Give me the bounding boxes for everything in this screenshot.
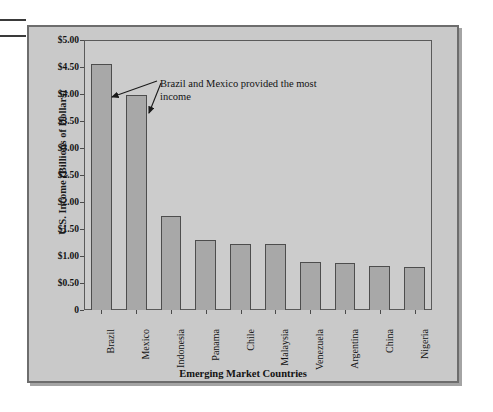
y-tick-label: $4.50: [58, 62, 79, 72]
y-tick-label: $0.50: [58, 278, 79, 288]
x-tick-mark: [310, 310, 311, 314]
x-tick-mark: [206, 310, 207, 314]
margin-rule-top: [0, 19, 26, 21]
x-label-venezuela: Venezuela: [314, 329, 325, 370]
bar-chile: [230, 244, 251, 310]
y-tick-label: $1.00: [58, 251, 79, 261]
x-label-brazil: Brazil: [105, 329, 116, 353]
y-tick-label: $3.50: [58, 116, 79, 126]
x-tick-mark: [275, 310, 276, 314]
bar-nigeria: [404, 267, 425, 310]
x-tick-mark: [415, 310, 416, 314]
x-label-panama: Panama: [210, 329, 221, 361]
chart-figure-frame: U.S. Income (Billions of Dollars) 0$0.50…: [27, 25, 459, 383]
bar-china: [369, 266, 390, 310]
y-tick-mark: [80, 121, 84, 122]
y-tick-mark: [80, 67, 84, 68]
bar-panama: [195, 240, 216, 310]
bar-venezuela: [300, 262, 321, 310]
y-tick-label: 0: [74, 305, 79, 315]
x-tick-mark: [241, 310, 242, 314]
x-label-mexico: Mexico: [140, 329, 151, 360]
bar-mexico: [126, 95, 147, 310]
y-tick-mark: [80, 40, 84, 41]
y-tick-mark: [80, 310, 84, 311]
chart-annotation-text: Brazil and Mexico provided the most inco…: [160, 77, 335, 103]
bar-indonesia: [161, 216, 182, 311]
x-label-argentina: Argentina: [349, 329, 360, 369]
x-tick-mark: [380, 310, 381, 314]
x-tick-mark: [171, 310, 172, 314]
y-tick-label: $2.00: [58, 197, 79, 207]
bar-malaysia: [265, 244, 286, 310]
bar-argentina: [335, 263, 356, 310]
x-label-malaysia: Malaysia: [279, 329, 290, 366]
y-tick-label: $2.50: [58, 170, 79, 180]
y-tick-label: $5.00: [58, 35, 79, 45]
x-tick-mark: [136, 310, 137, 314]
x-axis-title: Emerging Market Countries: [29, 368, 457, 379]
y-tick-mark: [80, 175, 84, 176]
y-tick-label: $3.00: [58, 143, 79, 153]
y-tick-mark: [80, 229, 84, 230]
y-tick-mark: [80, 202, 84, 203]
y-tick-mark: [80, 283, 84, 284]
bar-brazil: [91, 64, 112, 310]
y-tick-label: $1.50: [58, 224, 79, 234]
x-label-china: China: [384, 329, 395, 353]
margin-rule-bottom: [0, 35, 26, 37]
x-label-indonesia: Indonesia: [175, 329, 186, 368]
y-tick-mark: [80, 94, 84, 95]
y-tick-mark: [80, 148, 84, 149]
figure-page: U.S. Income (Billions of Dollars) 0$0.50…: [0, 0, 493, 412]
x-label-chile: Chile: [245, 329, 256, 351]
x-label-nigeria: Nigeria: [419, 329, 430, 359]
y-tick-mark: [80, 256, 84, 257]
x-tick-mark: [101, 310, 102, 314]
x-tick-mark: [345, 310, 346, 314]
y-tick-label: $4.00: [58, 89, 79, 99]
